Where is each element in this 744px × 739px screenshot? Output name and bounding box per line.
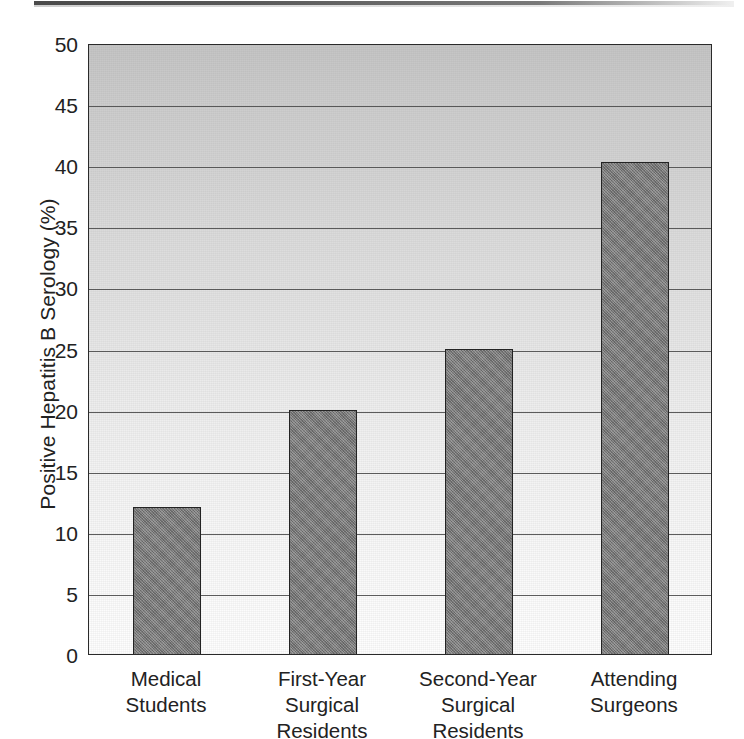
bar-chart-figure: Positive Hepatitis B Serology (%) 051015… [0,0,744,739]
y-tick-label: 40 [22,156,78,177]
bar [445,349,513,655]
x-tick-label: Medical Students [88,666,244,718]
y-axis-tick-labels: 05101520253035404550 [22,44,78,655]
bar [133,507,201,654]
y-tick-label: 15 [22,461,78,482]
y-tick-label: 45 [22,95,78,116]
y-tick-label: 5 [22,583,78,604]
y-tick-label: 20 [22,400,78,421]
plot-area [88,44,712,655]
x-tick-label: Attending Surgeons [556,666,712,718]
y-tick-label: 0 [22,645,78,666]
y-tick-label: 30 [22,278,78,299]
x-axis-tick-labels: Medical StudentsFirst-Year Surgical Resi… [88,666,712,738]
y-tick-label: 25 [22,339,78,360]
gridline [89,106,711,107]
y-tick-label: 10 [22,522,78,543]
y-tick-label: 50 [22,34,78,55]
x-tick-label: First-Year Surgical Residents [244,666,400,739]
bar [601,162,669,654]
bar [289,410,357,654]
y-tick-label: 35 [22,217,78,238]
x-tick-label: Second-Year Surgical Residents [400,666,556,739]
